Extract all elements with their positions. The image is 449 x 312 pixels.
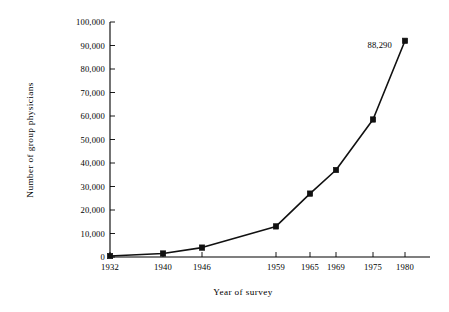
x-axis-title: Year of survey <box>213 287 272 297</box>
y-tick-label: 100,000 <box>76 17 105 27</box>
y-tick-label: 60,000 <box>80 111 105 121</box>
series-markers <box>107 38 407 259</box>
data-point-1959 <box>273 224 278 229</box>
y-tick-label: 50,000 <box>80 135 105 145</box>
x-tick-label-1940: 1940 <box>154 262 172 272</box>
data-point-1932 <box>107 253 112 258</box>
x-tick-label-1959: 1959 <box>267 262 285 272</box>
chart-canvas: 100,000 90,000 80,000 70,000 60,000 50,0… <box>0 0 449 312</box>
y-axis-title: Number of group physicians <box>25 82 35 197</box>
y-tick-label: 70,000 <box>80 88 105 98</box>
x-tick-label-1969: 1969 <box>327 262 345 272</box>
chart-screenshot: 100,000 90,000 80,000 70,000 60,000 50,0… <box>0 0 449 312</box>
x-tick-label-1980: 1980 <box>396 262 414 272</box>
x-tick-label-1932: 1932 <box>101 262 119 272</box>
y-tick-label: 20,000 <box>80 205 105 215</box>
x-tick-labels: 1932 1940 1946 1959 1965 1969 1975 1980 <box>101 262 414 272</box>
data-point-1940 <box>160 251 165 256</box>
x-tick-label-1975: 1975 <box>364 262 382 272</box>
y-tick-label: 30,000 <box>80 182 105 192</box>
y-tick-label: 10,000 <box>80 229 105 239</box>
data-point-1946 <box>199 245 204 250</box>
x-tick-label-1965: 1965 <box>301 262 319 272</box>
data-point-1965 <box>307 191 312 196</box>
x-tick-label-1946: 1946 <box>193 262 211 272</box>
y-tick-label: 40,000 <box>80 158 105 168</box>
data-point-1980 <box>402 38 407 43</box>
data-point-1975 <box>370 117 375 122</box>
y-tick-label: 0 <box>101 252 105 262</box>
y-tick-marks <box>110 22 115 257</box>
data-point-annotation-88290: 88,290 <box>367 40 392 50</box>
y-tick-labels: 100,000 90,000 80,000 70,000 60,000 50,0… <box>76 17 105 262</box>
y-tick-label: 90,000 <box>80 41 105 51</box>
line-chart-figure: 100,000 90,000 80,000 70,000 60,000 50,0… <box>0 0 449 312</box>
data-point-1969 <box>333 167 338 172</box>
y-tick-label: 80,000 <box>80 64 105 74</box>
series-line-group-physicians <box>110 41 405 256</box>
